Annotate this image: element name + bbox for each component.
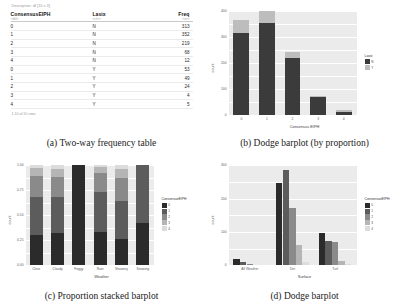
legend-item[interactable]: 0 [162, 203, 187, 208]
y-tick-label: 100 [221, 230, 227, 234]
frequency-table: ConsensusEIPH <dbl> Lasix <chr> Freq <in… [11, 11, 193, 110]
y-tick-label: 100 [221, 87, 227, 91]
table-row: 2 Y 24 [11, 83, 193, 92]
bar-segment [51, 169, 64, 177]
bar-segment [94, 232, 107, 265]
y-tick-label: 300 [221, 35, 227, 39]
x-tick-label: Showery [115, 267, 128, 271]
legend-label: 4 [168, 227, 170, 231]
legend-title: Lasix [365, 54, 374, 58]
legend-swatch [365, 226, 370, 231]
bar-segment [30, 197, 43, 235]
bar [345, 264, 351, 265]
legend-label: 1 [371, 209, 373, 213]
cell-freq: 313 [142, 22, 192, 31]
cell-freq: 5 [142, 100, 192, 109]
table-dimensions-label: Description: df [10 x 3] [11, 4, 193, 8]
y-tick-label: 0.75 [17, 188, 23, 192]
table-header-row: ConsensusEIPH <dbl> Lasix <chr> Freq <in… [11, 11, 193, 22]
cell-consensuseiph: 0 [11, 22, 93, 31]
column-type-consensuseiph: <dbl> [11, 17, 93, 21]
gridline [26, 190, 154, 191]
plot-panel-b [229, 11, 357, 115]
legend-swatch [162, 209, 167, 214]
bar [276, 183, 282, 266]
legend-item[interactable]: 1 [162, 209, 187, 214]
x-tick-label: Turf [332, 267, 338, 271]
cell-freq: 352 [142, 30, 192, 39]
cell-freq: 49 [142, 74, 192, 83]
cell-freq: 219 [142, 39, 192, 48]
cell-consensuseiph: 2 [11, 83, 93, 92]
bar-segment [51, 177, 64, 197]
bar-segment [51, 233, 64, 265]
cell-consensuseiph: 3 [11, 48, 93, 57]
legend-swatch [365, 209, 370, 214]
x-tick-label: 1 [266, 117, 268, 121]
legend-item[interactable]: 4 [365, 226, 390, 231]
legend-label: Y [371, 66, 373, 70]
legend-item[interactable]: 3 [365, 220, 390, 225]
legend-label: N [371, 60, 373, 64]
legend-d: ConsensusEIPH01234 [365, 197, 390, 232]
bar-segment [72, 165, 85, 265]
panel-caption-d: (d) Dodge barplot [268, 289, 340, 305]
bar-segment [115, 201, 128, 239]
legend-b: LasixNY [365, 54, 374, 71]
y-tick-label: 0 [225, 263, 227, 267]
column-header-lasix[interactable]: Lasix <chr> [92, 11, 142, 22]
bar [338, 261, 344, 266]
legend-swatch [365, 214, 370, 219]
legend-label: 2 [371, 215, 373, 219]
legend-item[interactable]: 2 [365, 214, 390, 219]
bar-segment [51, 197, 64, 233]
legend-swatch [162, 220, 167, 225]
legend-item[interactable]: 3 [162, 220, 187, 225]
cell-lasix: Y [92, 65, 142, 74]
legend-c: ConsensusEIPH01234 [162, 197, 187, 232]
bar-segment [115, 169, 128, 178]
legend-item[interactable]: 0 [365, 203, 390, 208]
panel-caption-a: (a) Two-way frequency table [45, 136, 159, 152]
frequency-table-container: Description: df [10 x 3] ConsensusEIPH <… [11, 4, 193, 116]
bar-group [94, 165, 107, 265]
cell-consensuseiph: 0 [11, 65, 93, 74]
table-row: 1 N 352 [11, 30, 193, 39]
bar-segment [285, 52, 301, 58]
legend-item[interactable]: 4 [162, 226, 187, 231]
cell-lasix: N [92, 48, 142, 57]
panel-caption-b: (b) Dodge barplot (by proportion) [238, 136, 371, 152]
legend-item[interactable]: N [365, 59, 374, 64]
plot-panel-d [229, 165, 357, 265]
bar-group [233, 11, 249, 115]
legend-label: 4 [371, 227, 373, 231]
x-tick-label: 2 [292, 117, 294, 121]
legend-item[interactable]: 2 [162, 214, 187, 219]
legend-title: ConsensusEIPH [365, 197, 390, 201]
x-tick-label: All Weather [241, 267, 258, 271]
legend-swatch [162, 203, 167, 208]
bar [325, 241, 331, 265]
legend-item[interactable]: 1 [365, 209, 390, 214]
legend-label: 3 [371, 221, 373, 225]
bar-segment [136, 223, 149, 265]
x-tick-label: Rain [97, 267, 104, 271]
column-header-freq[interactable]: Freq <int> [142, 11, 192, 22]
legend-label: 2 [168, 215, 170, 219]
bar-segment [94, 192, 107, 232]
legend-title: ConsensusEIPH [162, 197, 187, 201]
x-tick-label: Cloudy [52, 267, 62, 271]
bar-segment [136, 165, 149, 223]
legend-label: 0 [371, 203, 373, 207]
bar-segment [115, 165, 128, 169]
bar-segment [30, 168, 43, 176]
legend-swatch [162, 226, 167, 231]
bar-segment [94, 167, 107, 173]
cell-freq: 24 [142, 83, 192, 92]
column-header-consensuseiph[interactable]: ConsensusEIPH <dbl> [11, 11, 93, 22]
legend-swatch [162, 214, 167, 219]
bar [319, 233, 325, 266]
cell-lasix: N [92, 57, 142, 66]
bar [233, 259, 239, 265]
legend-item[interactable]: Y [365, 65, 374, 70]
